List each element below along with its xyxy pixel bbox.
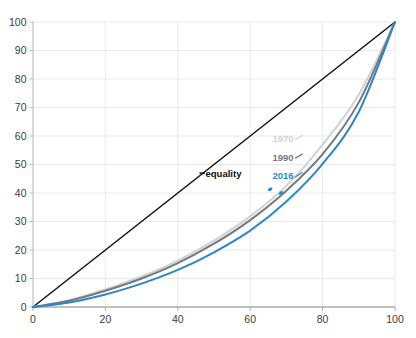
y-tick-label: 50 bbox=[15, 158, 27, 170]
x-tick-label: 0 bbox=[30, 313, 36, 325]
series-label-2016: 2016 bbox=[272, 170, 293, 181]
y-tick-label: 20 bbox=[15, 244, 27, 256]
series-label-1970: 1970 bbox=[272, 133, 293, 144]
x-tick-label: 80 bbox=[317, 313, 329, 325]
series-labels: equality197019902016 bbox=[200, 133, 303, 181]
y-tick-label: 60 bbox=[15, 130, 27, 142]
series-label-1990: 1990 bbox=[272, 152, 293, 163]
x-tick-label: 40 bbox=[172, 313, 184, 325]
y-tick-label: 80 bbox=[15, 73, 27, 85]
y-tick-label: 0 bbox=[21, 301, 27, 313]
y-axis-tick-labels: 0102030405060708090100 bbox=[9, 16, 27, 313]
x-tick-label: 60 bbox=[244, 313, 256, 325]
x-tick-label: 100 bbox=[386, 313, 404, 325]
y-tick-label: 90 bbox=[15, 44, 27, 56]
x-axis-tick-labels: 020406080100 bbox=[30, 313, 404, 325]
y-tick-label: 70 bbox=[15, 101, 27, 113]
y-tick-label: 100 bbox=[9, 16, 27, 28]
lorenz-curve-chart: 0102030405060708090100 020406080100 equa… bbox=[0, 0, 416, 338]
chart-svg: 0102030405060708090100 020406080100 equa… bbox=[0, 0, 416, 338]
y-tick-label: 40 bbox=[15, 187, 27, 199]
leader-line-1990 bbox=[295, 154, 303, 159]
x-tick-label: 20 bbox=[100, 313, 112, 325]
y-tick-label: 30 bbox=[15, 215, 27, 227]
y-tick-label: 10 bbox=[15, 272, 27, 284]
series-label-equality: equality bbox=[206, 168, 243, 179]
